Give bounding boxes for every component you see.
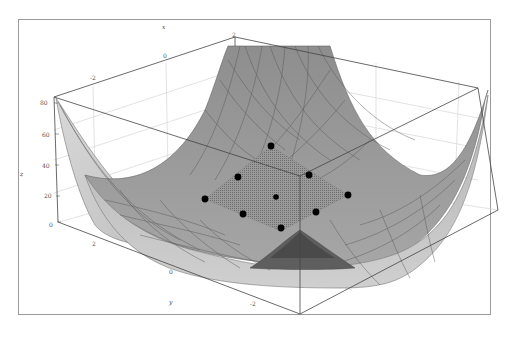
data-point: [268, 143, 275, 150]
y-tick-2: 2: [92, 240, 96, 247]
x-tick-2: 2: [232, 31, 236, 38]
data-point: [278, 225, 285, 232]
data-point: [306, 172, 313, 179]
y-axis-label: y: [168, 298, 173, 306]
data-point: [313, 209, 320, 216]
data-point: [273, 194, 279, 200]
z-tick-0: 0: [49, 221, 53, 228]
x-tick-minus2: -2: [90, 74, 96, 81]
data-point: [345, 192, 352, 199]
data-point: [235, 174, 242, 181]
surface-plot: 80 60 40 20 0 -2 0 2 2 0 -2 x y z: [0, 0, 523, 338]
z-axis-label: z: [19, 170, 24, 177]
plot-canvas: 80 60 40 20 0 -2 0 2 2 0 -2 x y z: [0, 0, 523, 338]
z-tick-60: 60: [42, 131, 50, 138]
data-point: [202, 196, 209, 203]
z-tick-20: 20: [44, 192, 52, 199]
x-tick-0: 0: [163, 52, 167, 59]
y-tick-0: 0: [169, 268, 173, 275]
data-point: [240, 211, 247, 218]
z-tick-80: 80: [40, 99, 48, 106]
x-axis-label: x: [162, 23, 166, 30]
z-tick-40: 40: [42, 162, 50, 169]
y-tick-minus2: -2: [250, 300, 256, 307]
